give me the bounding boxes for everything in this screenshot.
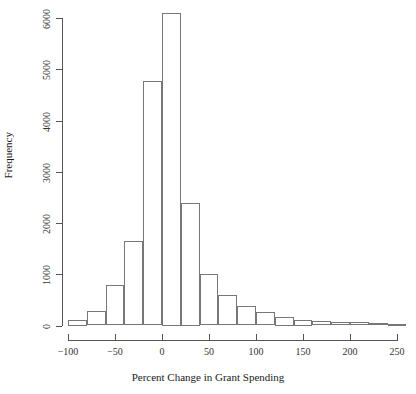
- y-axis-line: [62, 18, 63, 326]
- histogram-bar: [350, 322, 369, 325]
- x-axis-tick-label: 250: [390, 346, 405, 358]
- y-axis-tick-label-wrap: 2000: [30, 223, 52, 224]
- x-axis-tick: [115, 334, 116, 340]
- histogram-bar: [162, 13, 181, 326]
- y-axis-tick-label: 1000: [42, 265, 52, 285]
- y-axis-tick: [56, 18, 62, 19]
- y-axis-tick-label-wrap: 5000: [30, 69, 52, 70]
- histogram-bar: [218, 295, 237, 325]
- y-axis-tick-label-wrap: 4000: [30, 121, 52, 122]
- histogram-bar: [106, 285, 125, 325]
- y-axis-tick-label-wrap: 1000: [30, 274, 52, 275]
- histogram-bar: [87, 311, 106, 325]
- y-axis-tick: [56, 274, 62, 275]
- histogram-plot: 0100020003000400050006000 −100−500501001…: [0, 0, 416, 394]
- x-axis-line: [68, 340, 398, 341]
- histogram-bar: [124, 241, 143, 325]
- histogram-bar: [388, 324, 407, 326]
- histogram-bar: [181, 203, 200, 326]
- histogram-bar: [200, 274, 219, 326]
- x-axis-tick: [68, 334, 69, 340]
- x-axis-tick: [303, 334, 304, 340]
- histogram-bar: [312, 321, 331, 325]
- histogram-bar: [331, 322, 350, 326]
- y-axis-tick: [56, 69, 62, 70]
- x-axis-tick-label: −100: [58, 346, 79, 358]
- histogram-bar: [275, 317, 294, 326]
- y-axis-tick: [56, 121, 62, 122]
- x-axis-title: Percent Change in Grant Spending: [0, 371, 416, 383]
- x-axis-tick-label: 50: [204, 346, 214, 358]
- y-axis-tick-label: 6000: [42, 9, 52, 29]
- y-axis-title: Frequency: [2, 132, 14, 178]
- x-axis-tick: [350, 334, 351, 340]
- x-axis-tick-label: 100: [249, 346, 264, 358]
- x-axis-tick-label: 200: [343, 346, 358, 358]
- y-axis-tick-label-wrap: 6000: [30, 18, 52, 19]
- y-axis-tick: [56, 172, 62, 173]
- x-axis-tick-label: 0: [160, 346, 165, 358]
- x-axis-tick-label: 150: [296, 346, 311, 358]
- y-axis-tick-label-wrap: 3000: [30, 172, 52, 173]
- y-axis-tick-label: 5000: [42, 60, 52, 80]
- x-axis-tick-label: −50: [107, 346, 123, 358]
- y-axis-tick: [56, 326, 62, 327]
- y-axis-tick-label-wrap: 0: [30, 326, 52, 327]
- histogram-bar: [68, 320, 87, 325]
- x-axis-tick: [397, 334, 398, 340]
- histogram-bar: [294, 320, 313, 325]
- y-axis-tick-label: 3000: [42, 163, 52, 183]
- y-axis-tick-label: 4000: [42, 112, 52, 132]
- histogram-bar: [237, 306, 256, 325]
- y-axis-tick-label: 0: [42, 324, 52, 329]
- y-axis-tick: [56, 223, 62, 224]
- x-axis-tick: [162, 334, 163, 340]
- histogram-bar: [143, 81, 162, 325]
- x-axis-tick: [209, 334, 210, 340]
- x-axis-tick: [256, 334, 257, 340]
- histogram-bar: [256, 312, 275, 325]
- histogram-bar: [369, 323, 388, 325]
- y-axis-tick-label: 2000: [42, 214, 52, 234]
